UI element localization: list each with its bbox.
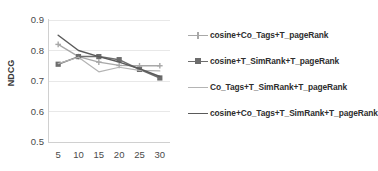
legend-label-1: cosine+T_SimRank+T_pageRank xyxy=(210,56,339,66)
x-tick-label-5: 30 xyxy=(148,150,172,160)
chart-legend: cosine+Co_Tags+T_pageRankcosine+T_SimRan… xyxy=(188,28,378,138)
legend-entry-1[interactable]: cosine+T_SimRank+T_pageRank xyxy=(188,54,339,68)
ndcg-line-chart: NDCG 0.50.60.70.80.9 51015202530 cosine+… xyxy=(0,0,378,171)
legend-entry-2[interactable]: Co_Tags+T_SimRank+T_pageRank xyxy=(188,80,347,94)
legend-marker-icon-3 xyxy=(188,107,208,119)
legend-label-3: cosine+Co_Tags+T_SimRank+T_pageRank xyxy=(210,108,378,118)
legend-entry-0[interactable]: cosine+Co_Tags+T_pageRank xyxy=(188,28,328,42)
legend-marker-icon-1 xyxy=(188,55,208,67)
legend-marker-icon-2 xyxy=(188,81,208,93)
legend-label-0: cosine+Co_Tags+T_pageRank xyxy=(210,30,328,40)
legend-label-2: Co_Tags+T_SimRank+T_pageRank xyxy=(210,82,347,92)
legend-marker-icon-0 xyxy=(188,29,208,41)
legend-entry-3[interactable]: cosine+Co_Tags+T_SimRank+T_pageRank xyxy=(188,106,378,120)
